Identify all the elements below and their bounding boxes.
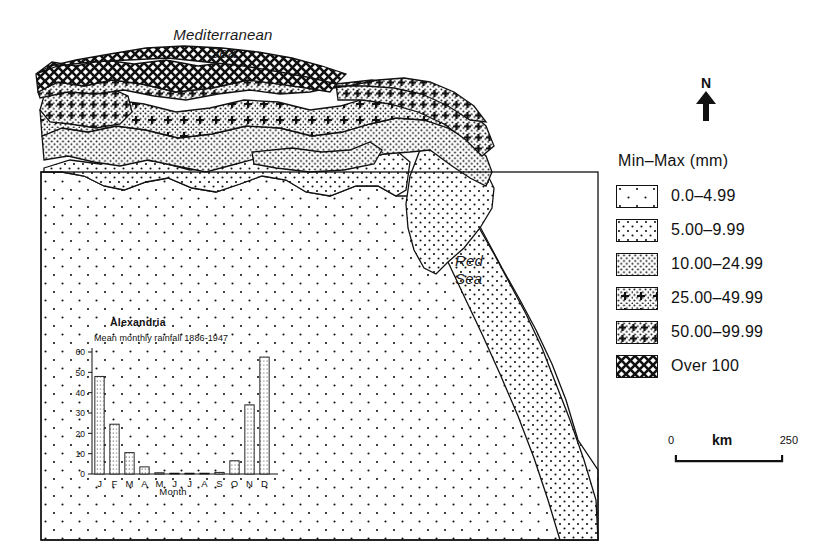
svg-text:50: 50 xyxy=(76,368,86,378)
legend-item: Over 100 xyxy=(616,353,831,379)
scale-bar: 0 km 250 xyxy=(668,434,798,467)
scale-min-label: 0 xyxy=(668,434,674,446)
red-sea-label: Red Sea xyxy=(455,252,515,288)
legend-swatch-sparse-dots xyxy=(616,185,658,208)
legend-label: 50.00–99.99 xyxy=(671,323,763,341)
legend-swatch-dense-dots xyxy=(616,253,658,276)
svg-text:60: 60 xyxy=(76,347,86,357)
svg-text:20: 20 xyxy=(76,429,86,439)
legend-item: 5.00–9.99 xyxy=(616,217,831,243)
mediterranean-sea-label: Mediterranean Sea xyxy=(138,26,308,62)
inset-chart-y-tick-labels: 0102030405060 xyxy=(76,347,86,479)
legend-item: 0.0–4.99 xyxy=(616,183,831,209)
legend-title: Min–Max (mm) xyxy=(618,152,831,170)
legend-item: 25.00–49.99 xyxy=(616,285,831,311)
sea-label-line1: Mediterranean xyxy=(138,26,308,44)
inset-chart-x-axis-label: Month xyxy=(58,486,288,497)
sea-label-line1: Red xyxy=(455,252,515,270)
scale-unit-label: km xyxy=(712,432,732,448)
legend-label: 0.0–4.99 xyxy=(671,187,736,205)
legend-label: 5.00–9.99 xyxy=(671,221,745,239)
inset-chart-plot: JFMAMJJASOND 0102030405060 xyxy=(58,316,288,506)
scale-bar-graphic xyxy=(668,454,790,463)
svg-text:10: 10 xyxy=(76,449,86,459)
alexandria-rainfall-inset-chart: Alexandria Mean monthly rainfall 1886-19… xyxy=(58,316,288,506)
north-arrow: N xyxy=(686,76,726,121)
rainfall-map-figure: Mediterranean Sea Red Sea N Min–Max (mm)… xyxy=(0,0,838,552)
legend-label: 10.00–24.99 xyxy=(671,255,763,273)
sea-label-line2: Sea xyxy=(455,270,515,288)
north-arrow-icon xyxy=(694,91,718,121)
svg-text:40: 40 xyxy=(76,388,86,398)
scale-max-label: 250 xyxy=(780,434,798,446)
inset-chart-bars xyxy=(95,357,269,474)
legend-label: Over 100 xyxy=(671,357,739,375)
legend-label: 25.00–49.99 xyxy=(671,289,763,307)
legend-swatch-medium-dots xyxy=(616,219,658,242)
north-arrow-letter: N xyxy=(686,76,726,90)
legend-swatch-dots-with-crosses xyxy=(616,287,658,310)
svg-text:0: 0 xyxy=(80,469,85,479)
legend: Min–Max (mm) 0.0–4.99 5.00–9.99 10.00–24… xyxy=(616,152,831,387)
legend-item: 50.00–99.99 xyxy=(616,319,831,345)
sea-label-line2: Sea xyxy=(138,44,308,62)
legend-swatch-dense-crosshatch xyxy=(616,355,658,378)
svg-text:30: 30 xyxy=(76,408,86,418)
legend-item: 10.00–24.99 xyxy=(616,251,831,277)
legend-swatch-cross-grid xyxy=(616,321,658,344)
